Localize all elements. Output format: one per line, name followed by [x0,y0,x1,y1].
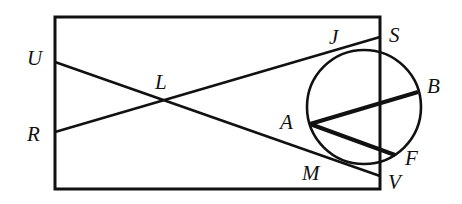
segment-af [310,124,395,155]
label-f: F [405,148,418,169]
label-a: A [280,112,293,133]
label-v: V [388,172,401,193]
geometry-diagram: U L R J S B A F M V [0,0,462,204]
label-r: R [27,124,40,145]
label-m: M [302,163,320,184]
label-b: B [427,76,440,97]
segment-ab [310,92,418,124]
label-l: L [155,72,167,93]
label-u: U [27,48,42,69]
label-j: J [329,27,338,48]
label-s: S [389,25,400,46]
